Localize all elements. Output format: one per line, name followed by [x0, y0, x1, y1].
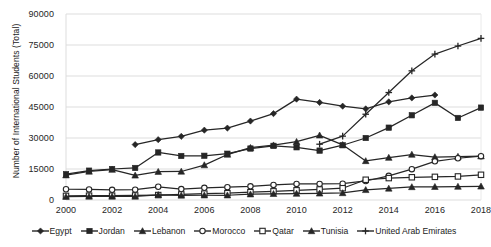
marker-circle-open [225, 184, 230, 189]
marker-circle-open [132, 187, 137, 192]
legend-item-qatar[interactable]: Qatar [254, 226, 294, 236]
marker-square [478, 105, 483, 110]
legend-label: Jordan [99, 227, 125, 236]
marker-square [432, 100, 437, 105]
chart-legend: EgyptJordanLebanonMoroccoQatarTunisiaUni… [0, 226, 488, 236]
marker-circle-open [202, 185, 207, 190]
marker-square [132, 165, 137, 170]
marker-square [294, 145, 299, 150]
marker-circle-open [156, 184, 161, 189]
marker-square-open [260, 228, 265, 233]
legend-label: Morocco [212, 227, 245, 236]
legend-item-lebanon[interactable]: Lebanon [134, 226, 185, 236]
legend-item-jordan[interactable]: Jordan [81, 226, 125, 236]
marker-diamond [132, 142, 138, 148]
marker-plus [316, 141, 323, 148]
marker-triangle [316, 132, 323, 138]
marker-diamond [270, 111, 276, 117]
marker-square [409, 113, 414, 118]
legend-marker-icon [303, 226, 320, 236]
legend-label: United Arab Emirates [375, 227, 456, 236]
marker-circle-open [248, 184, 253, 189]
marker-square [86, 228, 91, 233]
marker-diamond [293, 96, 299, 102]
marker-diamond [201, 127, 207, 133]
marker-plus [455, 43, 462, 50]
marker-diamond [178, 133, 184, 139]
legend-marker-icon [194, 226, 211, 236]
marker-circle-open [294, 181, 299, 186]
marker-square-open [455, 174, 460, 179]
legend-item-egypt[interactable]: Egypt [32, 226, 72, 236]
marker-square-open [363, 177, 368, 182]
legend-label: Egypt [50, 227, 72, 236]
legend-item-united-arab-emirates[interactable]: United Arab Emirates [357, 226, 456, 236]
marker-diamond [432, 92, 438, 98]
marker-circle-open [63, 187, 68, 192]
marker-circle-open [109, 187, 114, 192]
marker-square [386, 125, 391, 130]
legend-item-tunisia[interactable]: Tunisia [303, 226, 348, 236]
legend-label: Lebanon [152, 227, 185, 236]
legend-marker-icon [357, 226, 374, 236]
marker-square-open [432, 174, 437, 179]
marker-diamond [37, 228, 43, 234]
marker-circle-open [200, 228, 205, 233]
marker-square [202, 153, 207, 158]
legend-label: Qatar [272, 227, 294, 236]
marker-circle-open [179, 186, 184, 191]
marker-square-open [478, 172, 483, 177]
marker-diamond [340, 103, 346, 109]
marker-square [317, 148, 322, 153]
marker-diamond [409, 95, 415, 101]
series-line [320, 38, 481, 144]
marker-circle-open [317, 181, 322, 186]
marker-plus [362, 228, 369, 235]
marker-square [363, 135, 368, 140]
marker-circle-open [455, 156, 460, 161]
series-egypt [132, 92, 438, 148]
marker-diamond [386, 99, 392, 105]
marker-circle-open [478, 153, 483, 158]
marker-diamond [317, 99, 323, 105]
marker-diamond [224, 125, 230, 131]
series-lebanon [63, 132, 485, 178]
marker-square [156, 150, 161, 155]
marker-plus [478, 35, 485, 42]
marker-square-open [409, 175, 414, 180]
legend-label: Tunisia [321, 227, 348, 236]
marker-square-open [386, 175, 391, 180]
marker-diamond [155, 137, 161, 143]
series-united-arab-emirates [316, 35, 484, 147]
marker-circle-open [86, 187, 91, 192]
marker-square [455, 115, 460, 120]
legend-marker-icon [32, 226, 49, 236]
legend-marker-icon [81, 226, 98, 236]
marker-square [179, 153, 184, 158]
legend-marker-icon [254, 226, 271, 236]
marker-triangle [201, 162, 208, 168]
marker-circle-open [432, 159, 437, 164]
marker-diamond [247, 118, 253, 124]
marker-circle-open [271, 182, 276, 187]
legend-marker-icon [134, 226, 151, 236]
marker-circle-open [409, 167, 414, 172]
legend-item-morocco[interactable]: Morocco [194, 226, 245, 236]
